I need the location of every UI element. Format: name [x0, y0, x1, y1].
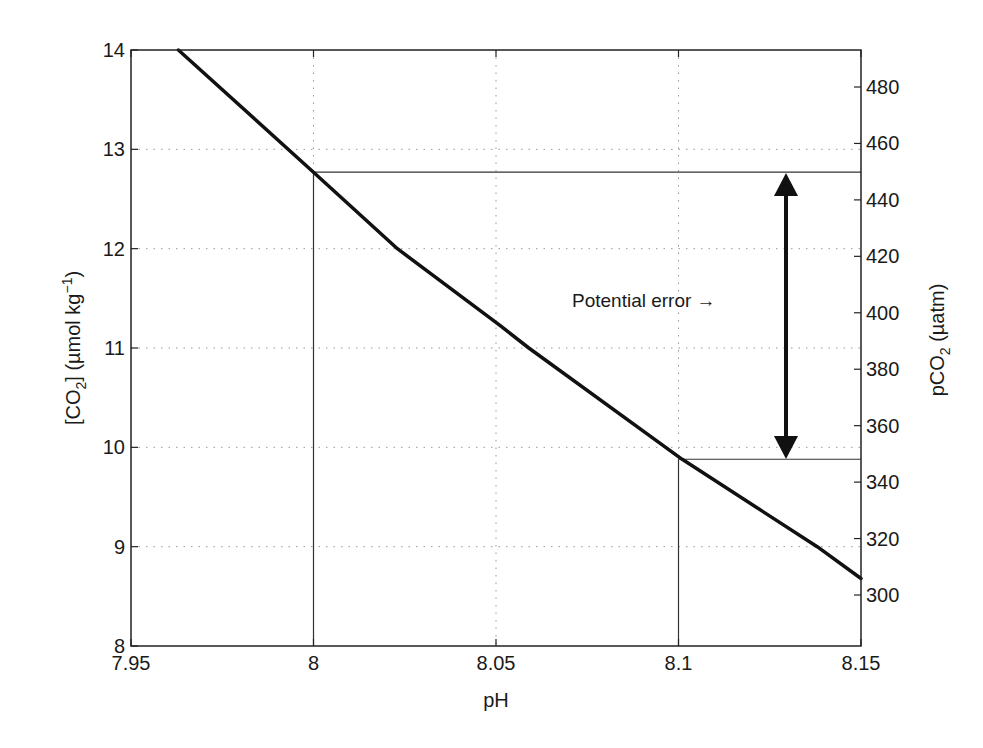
reference-lines — [314, 172, 862, 646]
y-right-tick-label: 460 — [866, 132, 899, 154]
y-tick-label: 8 — [114, 635, 125, 657]
y-tick-label: 13 — [103, 138, 125, 160]
x-tick-label: 8.05 — [477, 652, 516, 674]
x-tick-label: 8.15 — [842, 652, 881, 674]
y-right-tick-label: 480 — [866, 76, 899, 98]
chart: 7.9588.058.18.15 891011121314 3003203403… — [0, 0, 983, 748]
gridlines — [131, 50, 861, 646]
y-tick-label: 9 — [114, 536, 125, 558]
x-axis-ticks: 7.9588.058.18.15 — [112, 50, 881, 674]
y-tick-label: 14 — [103, 39, 125, 61]
y-right-tick-label: 340 — [866, 471, 899, 493]
y-right-tick-label: 400 — [866, 302, 899, 324]
y-right-axis-label: pCO2 (µatm) — [926, 284, 953, 397]
y-right-tick-label: 300 — [866, 584, 899, 606]
data-curve — [178, 50, 861, 579]
x-tick-label: 8 — [308, 652, 319, 674]
x-axis-label: pH — [483, 689, 509, 711]
y-right-tick-label: 320 — [866, 528, 899, 550]
annotation-potential-error: Potential error → — [572, 290, 716, 311]
y-right-tick-label: 420 — [866, 245, 899, 267]
y-tick-label: 12 — [103, 238, 125, 260]
y-right-tick-label: 360 — [866, 415, 899, 437]
double-arrow-icon — [774, 173, 798, 459]
y-right-tick-label: 440 — [866, 189, 899, 211]
y-axis-label: [CO2] (µmol kg−1) — [59, 271, 89, 425]
y-tick-label: 11 — [104, 337, 125, 359]
x-tick-label: 8.1 — [665, 652, 693, 674]
y-tick-label: 10 — [103, 436, 125, 458]
plot-frame — [131, 50, 861, 646]
y-right-tick-label: 380 — [866, 358, 899, 380]
y-axis-ticks: 891011121314 — [103, 39, 138, 657]
